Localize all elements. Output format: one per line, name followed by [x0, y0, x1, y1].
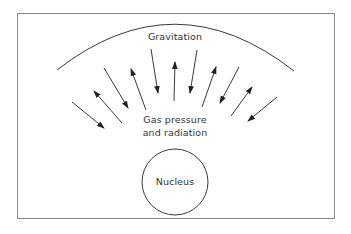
pressure-arrow: [231, 87, 252, 116]
gravitation-label: Gravitation: [135, 30, 215, 43]
gravitation-arrow: [220, 67, 239, 103]
pressure-arrow: [202, 67, 216, 107]
gravitation-arrow: [248, 97, 277, 121]
pressure-arrow: [131, 69, 146, 110]
pressure-arrow: [174, 62, 175, 101]
gravitation-arrow: [190, 50, 197, 93]
gas-pressure-line2: and radiation: [125, 126, 225, 139]
gravitation-arrow: [104, 68, 128, 108]
gas-pressure-label: Gas pressure and radiation: [125, 113, 225, 139]
gravitation-arrow: [151, 49, 158, 93]
nucleus-label: Nucleus: [140, 175, 210, 188]
gravitation-arrow: [72, 102, 104, 128]
gas-pressure-line1: Gas pressure: [125, 113, 225, 126]
pressure-arrow: [94, 91, 122, 123]
